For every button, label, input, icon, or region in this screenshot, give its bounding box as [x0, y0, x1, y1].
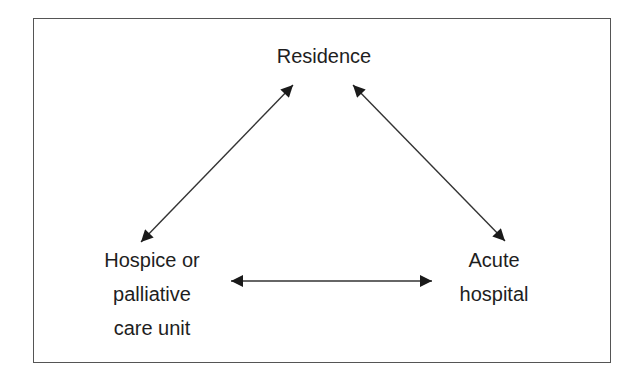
node-hospice-label-line-2: palliative [72, 277, 232, 311]
node-hospice-label-line-3: care unit [72, 311, 232, 345]
node-hospice-or-palliative-care-unit: Hospice or palliative care unit [72, 243, 232, 345]
node-residence: Residence [244, 39, 404, 73]
node-acute-label-line-1: Acute [414, 243, 574, 277]
edge-residence-acute-arrow [353, 85, 505, 241]
edge-residence-hospice-arrow [141, 85, 293, 242]
node-acute-label-line-2: hospital [414, 277, 574, 311]
node-hospice-label-line-1: Hospice or [72, 243, 232, 277]
node-acute-hospital: Acute hospital [414, 243, 574, 311]
node-residence-label: Residence [244, 39, 404, 73]
